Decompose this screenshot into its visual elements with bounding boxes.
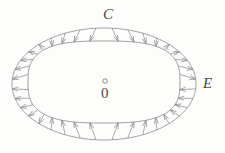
field-vector-arrow — [128, 30, 134, 42]
field-vector-arrow — [74, 30, 80, 42]
field-vector-arrow — [51, 118, 52, 130]
field-vector-arrow — [21, 59, 33, 60]
field-vector-arrow — [112, 123, 118, 140]
field-vector-arrow — [90, 28, 96, 41]
curve-label-c: C — [103, 7, 113, 22]
field-vector-arrow — [74, 122, 80, 138]
field-vector-arrow — [128, 122, 134, 138]
field-vector-arrow — [51, 38, 52, 46]
field-vector-arrow — [156, 118, 157, 130]
field-vector-arrow — [112, 28, 118, 41]
field-vector-arrow — [175, 105, 187, 108]
field-vector-arrow — [29, 52, 38, 54]
field-vector-arrow — [21, 105, 33, 108]
field-vector-arrow — [164, 44, 169, 49]
field-vector-arrow — [143, 33, 146, 43]
field-vector-arrow — [170, 52, 179, 54]
curve-label-e: E — [203, 76, 212, 91]
field-vector-arrow — [90, 123, 96, 140]
field-vector-arrow — [15, 66, 30, 70]
field-vector-arrow — [143, 120, 146, 134]
figure-container: C E 0 — [0, 0, 225, 153]
field-vector-arrow — [180, 74, 196, 79]
field-vector-arrow — [12, 89, 28, 90]
origin-label: 0 — [101, 86, 109, 101]
inner-closed-curve — [28, 41, 180, 123]
field-vector-arrow — [178, 66, 193, 70]
vector-field-diagram — [0, 0, 225, 153]
field-vector-arrow — [180, 89, 196, 90]
field-vector-arrow — [12, 74, 28, 79]
field-vector-arrow — [170, 110, 179, 116]
field-vector-arrow — [29, 110, 38, 116]
field-vector-arrow — [62, 120, 65, 134]
origin-point-marker — [103, 79, 107, 83]
field-vector-arrow — [175, 59, 187, 60]
field-vector-arrow — [156, 38, 157, 46]
field-vector-arrow — [39, 114, 44, 123]
field-vector-arrow — [39, 44, 44, 49]
field-vector-arrow — [164, 114, 169, 123]
field-vector-arrow — [62, 33, 65, 43]
